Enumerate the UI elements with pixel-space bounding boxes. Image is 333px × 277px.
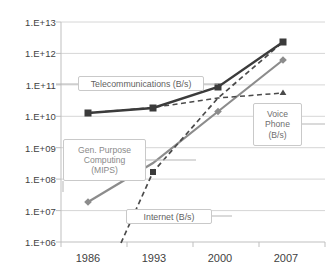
annotation-internet: Internet (B/s) bbox=[126, 209, 212, 224]
data-point-marker-square bbox=[150, 169, 156, 175]
x-axis bbox=[61, 242, 325, 247]
x-tick-label: 1993 bbox=[131, 252, 177, 264]
data-point-marker-triangle bbox=[280, 90, 287, 96]
y-axis bbox=[56, 22, 61, 242]
annotation-line: Phone bbox=[265, 119, 290, 129]
chart-container: 1.E+13 1.E+12 1.E+11 1.E+10 1.E+09 1.E+0… bbox=[0, 0, 333, 277]
annotation-line: Voice bbox=[267, 109, 288, 119]
annotation-line: (B/s) bbox=[268, 130, 286, 140]
x-tick-label: 2007 bbox=[263, 252, 309, 264]
annotation-telecommunications: Telecommunications (B/s) bbox=[78, 76, 204, 91]
annotation-gen-purpose-computing: Gen. Purpose Computing (MIPS) bbox=[63, 139, 146, 181]
annotation-voice-phone: Voice Phone (B/s) bbox=[253, 103, 302, 146]
annotation-line: Gen. Purpose bbox=[78, 145, 131, 155]
annotation-line: (MIPS) bbox=[91, 165, 118, 175]
x-tick-label: 2000 bbox=[197, 252, 243, 264]
x-tick-label: 1986 bbox=[65, 252, 111, 264]
annotation-line: Computing bbox=[84, 155, 126, 165]
